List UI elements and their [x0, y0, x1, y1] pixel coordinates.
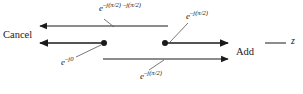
top-expression-label: e–j(π/2)–j(π/2) — [99, 4, 141, 13]
upper-right-expression-label: e–j(π/2) — [186, 12, 208, 21]
bottom-center-expression-label: e–j(π/2) — [140, 72, 162, 81]
vector-diagram: Cancel Add z e–j(π/2)–j(π/2) e–j(π/2) e–… — [0, 0, 303, 94]
middle-left-origin-dot — [101, 40, 107, 46]
lower-left-expression-exponent: –j0 — [65, 55, 73, 62]
leader-line-upper-right — [170, 23, 188, 42]
bottom-center-expression-exponent: –j(π/2) — [144, 69, 162, 76]
axis-variable-label: z — [291, 36, 295, 46]
top-expression-exponent: –j(π/2) — [103, 1, 121, 8]
add-label: Add — [236, 47, 254, 58]
upper-right-expression-exponent: –j(π/2) — [190, 9, 208, 16]
middle-right-origin-dot — [162, 40, 168, 46]
leader-line-lower-left — [76, 45, 101, 57]
lower-left-expression-label: e–j0 — [61, 58, 73, 67]
cancel-label: Cancel — [3, 30, 32, 41]
top-expression-trailing: –j(π/2) — [123, 1, 141, 8]
